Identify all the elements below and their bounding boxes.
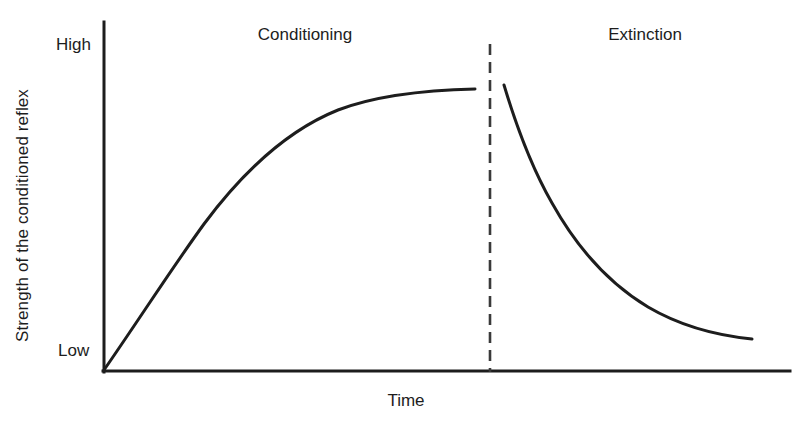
phase-label-extinction: Extinction: [490, 26, 800, 43]
y-tick-label-low: Low: [58, 342, 89, 359]
conditioning-extinction-figure: Strength of the conditioned reflex High …: [0, 0, 812, 431]
y-axis-title-text: Strength of the conditioned reflex: [14, 89, 31, 342]
conditioning-curve: [104, 89, 475, 370]
y-axis-title: Strength of the conditioned reflex: [0, 0, 44, 431]
x-axis-title: Time: [0, 392, 812, 409]
extinction-curve: [504, 85, 752, 339]
chart-plot-area: [0, 0, 812, 431]
